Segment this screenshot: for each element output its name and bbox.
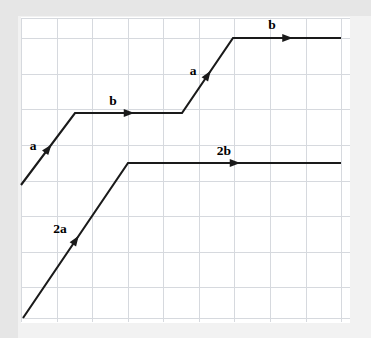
vector-label-upper-second-b: b bbox=[268, 17, 276, 32]
vector-label-upper-second-a: a bbox=[190, 63, 197, 78]
vector-label-lower-2b: 2b bbox=[217, 143, 231, 158]
vector-label-lower-2a: 2a bbox=[53, 221, 67, 236]
plot-area-background bbox=[21, 17, 350, 323]
figure-top-shade bbox=[0, 0, 371, 16]
vector-diagram-canvas: abab2a2b bbox=[0, 0, 371, 338]
vector-diagram-figure: abab2a2b bbox=[0, 0, 371, 338]
vector-label-upper-first-a: a bbox=[30, 138, 37, 153]
vector-label-upper-first-b: b bbox=[109, 93, 117, 108]
figure-left-shade bbox=[0, 0, 18, 338]
